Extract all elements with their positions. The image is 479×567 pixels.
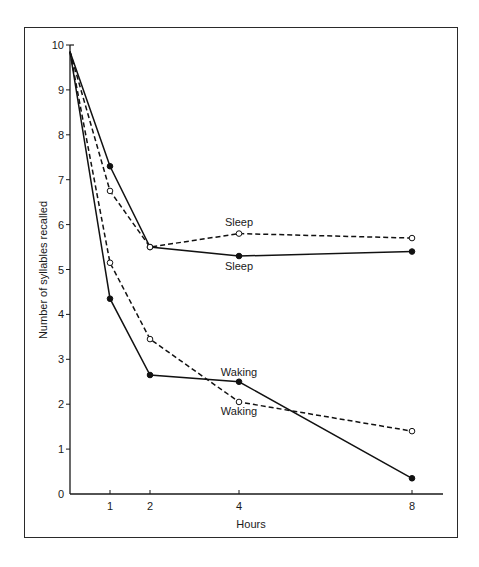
data-point-waking-solid [147, 372, 153, 378]
data-point-waking-dashed [147, 336, 153, 342]
x-tick-label: 2 [147, 500, 153, 512]
axes: 0123456789101248 [52, 39, 443, 512]
labels-group: Sleep Sleep Waking Waking Hours Number o… [37, 201, 266, 530]
data-point-waking-solid [409, 475, 415, 481]
x-tick-label: 1 [107, 500, 113, 512]
label-waking-dashed: Waking [221, 405, 257, 417]
y-tick-label: 5 [58, 264, 64, 276]
data-point-sleep-dashed [409, 235, 415, 241]
y-tick-label: 8 [58, 129, 64, 141]
y-tick-label: 1 [58, 443, 64, 455]
y-tick-label: 2 [58, 398, 64, 410]
x-tick-label: 4 [236, 500, 242, 512]
data-point-sleep-solid [409, 249, 415, 255]
data-point-sleep-dashed [147, 244, 153, 250]
data-point-sleep-solid [236, 253, 242, 259]
data-point-sleep-dashed [107, 188, 113, 194]
y-tick-label: 0 [58, 488, 64, 500]
x-tick-label: 8 [409, 500, 415, 512]
label-waking-solid: Waking [221, 366, 257, 378]
data-point-waking-solid [107, 296, 113, 302]
y-tick-label: 3 [58, 353, 64, 365]
data-point-waking-dashed [236, 399, 242, 405]
data-point-waking-dashed [409, 428, 415, 434]
data-point-sleep-solid [107, 163, 113, 169]
x-axis-label: Hours [236, 518, 266, 530]
y-tick-label: 7 [58, 174, 64, 186]
y-tick-label: 6 [58, 219, 64, 231]
data-point-sleep-dashed [236, 231, 242, 237]
label-sleep-solid: Sleep [225, 260, 253, 272]
data-point-waking-dashed [107, 260, 113, 266]
y-tick-label: 10 [52, 39, 64, 51]
y-axis-label: Number of syllables recalled [37, 201, 49, 339]
y-tick-label: 4 [58, 308, 64, 320]
data-point-waking-solid [236, 379, 242, 385]
line-chart: 0123456789101248 Sleep Sleep Waking Waki… [0, 0, 479, 567]
y-tick-label: 9 [58, 84, 64, 96]
label-sleep-dashed: Sleep [225, 216, 253, 228]
